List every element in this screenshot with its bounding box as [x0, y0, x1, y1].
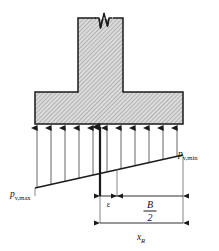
epsilon-label: ε — [107, 200, 111, 209]
dimension-extension-lines — [35, 155, 183, 223]
pressure-distribution-line — [35, 155, 183, 188]
half-width-denominator: 2 — [148, 212, 153, 223]
footing-outline — [35, 18, 183, 124]
x-r-subscript: R — [140, 237, 145, 244]
pressure-min-label: pv,min — [177, 149, 198, 161]
half-width-numerator: B — [147, 199, 153, 210]
footing-pressure-diagram: ε B 2 xR pv,max pv,min — [0, 0, 219, 251]
dimension-half-width: B 2 — [117, 196, 183, 223]
dimension-resultant-distance: xR — [100, 223, 183, 244]
pressure-min-subscript: v,min — [183, 154, 198, 161]
figure-container: ε B 2 xR pv,max pv,min — [0, 0, 219, 251]
pressure-max-label: pv,max — [9, 189, 31, 201]
concrete-footing-assembly — [35, 18, 183, 124]
dimension-epsilon: ε — [100, 196, 117, 209]
pressure-arrow-group — [37, 128, 177, 188]
pressure-max-subscript: v,max — [15, 194, 32, 201]
x-r-label: xR — [136, 232, 145, 244]
